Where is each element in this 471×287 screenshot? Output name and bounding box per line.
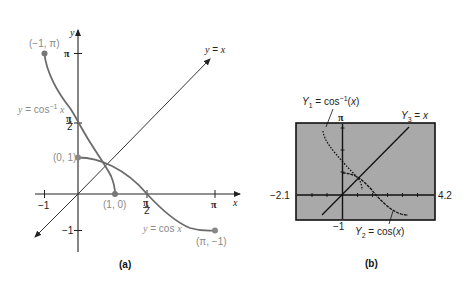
x-tick-pi-over-2: π 2 [143, 197, 150, 216]
point-label-neg1-pi: (−1, π) [29, 38, 60, 49]
y-tick-pi-over-2: π 2 [66, 113, 73, 132]
point-label-1-0: (1, 0) [103, 199, 126, 210]
svg-text:2: 2 [144, 205, 150, 216]
point-pi-neg1 [212, 228, 218, 234]
y-tick-pi: π [64, 48, 70, 59]
identity-line [78, 59, 210, 194]
point-label-0-1: (0, 1) [53, 152, 76, 163]
identity-label: y = x [204, 44, 226, 55]
ymin-label: −1 [333, 221, 345, 232]
y1-label: Y1 = cos−1(x) [302, 95, 359, 109]
cos-label: y = cos x [142, 223, 182, 234]
ymax-label: π [338, 112, 344, 123]
y3-label: Y3 = x [401, 110, 429, 123]
xmax-label: 4.2 [438, 190, 452, 201]
y-tick-neg1: −1 [62, 225, 74, 236]
figure-a: y x −1 π 2 π π π 2 −1 (−1, π) (0, 1) (1,… [17, 27, 240, 270]
point-neg1-pi [42, 51, 48, 57]
xmin-label: −2.1 [270, 190, 290, 201]
caption-a: (a) [119, 259, 131, 270]
figure-b: −2.1 4.2 −1 π Y1 = cos−1(x) Y3 = x Y2 = … [270, 95, 452, 269]
y-axis-label: y [69, 27, 75, 38]
point-label-pi-neg1: (π, −1) [196, 236, 227, 247]
x-axis-label: x [232, 197, 238, 208]
arccos-label: y = cos−1 x [17, 103, 65, 115]
caption-b: (b) [365, 258, 378, 269]
figure-canvas: y x −1 π 2 π π π 2 −1 (−1, π) (0, 1) (1,… [0, 0, 471, 287]
y2-label: Y2 = cos(x) [355, 226, 404, 239]
arccos-curve [45, 54, 116, 195]
x-tick-neg1: −1 [38, 200, 50, 211]
x-tick-pi: π [211, 199, 217, 210]
svg-text:2: 2 [67, 121, 73, 132]
point-1-0 [112, 191, 118, 197]
